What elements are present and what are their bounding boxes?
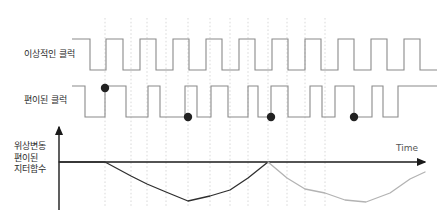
label-time-axis: Time [396, 143, 418, 154]
label-jitter-line-2: 편이된 [14, 153, 60, 165]
label-jitter-line-3: 지터함수 [14, 164, 60, 176]
label-shifted-clock: 편이된 클럭 [24, 95, 67, 106]
series-jitter-phase-deviation-primary [59, 162, 268, 201]
label-jitter-line-1: 위상변동 [14, 141, 60, 153]
label-jitter-function: 위상변동 편이된 지터함수 [14, 141, 60, 176]
phase-shift-marker-1 [101, 84, 109, 92]
chart-layer [0, 0, 440, 216]
jitter-diagram-figure: 이상적인 클럭 편이된 클럭 위상변동 편이된 지터함수 Time [0, 0, 440, 216]
phase-shift-marker-3 [267, 113, 275, 121]
phase-shift-marker-4 [350, 113, 358, 121]
label-ideal-clock: 이상적인 클럭 [24, 49, 75, 60]
series-jitter-phase-deviation-secondary [268, 162, 425, 202]
phase-shift-marker-2 [184, 113, 192, 121]
